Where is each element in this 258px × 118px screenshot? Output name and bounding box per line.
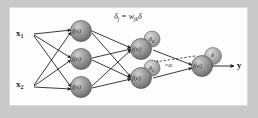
input-label-x2: x2 <box>16 80 24 89</box>
edge-x1-h1 <box>34 30 71 34</box>
node-label-hidden1-3: f(e) <box>72 84 81 91</box>
node-label-hidden2-1: f(e) <box>132 46 141 53</box>
badge-label-delta-4: δ4 <box>149 36 154 43</box>
backprop-weight-label: w46 <box>165 62 172 67</box>
badge-label-delta-output: δ <box>211 52 214 59</box>
edge-x1-h3 <box>34 36 71 87</box>
output-label-y: y <box>237 61 242 70</box>
figure-panel: x1 x2 δj = wjkδ f(e) f(e) f(e) f(e) f(e)… <box>9 7 248 106</box>
node-label-hidden2-2: f(e) <box>132 75 141 82</box>
edge-x2-h3 <box>34 87 71 89</box>
figure-screenshot: x1 x2 δj = wjkδ f(e) f(e) f(e) f(e) f(e)… <box>0 0 258 118</box>
edge-x1-h2 <box>34 35 71 58</box>
node-label-hidden1-2: f(e) <box>72 56 81 63</box>
node-label-hidden1-1: f(e) <box>72 28 81 35</box>
edges-hidden1-to-hidden2 <box>92 31 131 88</box>
edge-x2-h2 <box>34 60 71 86</box>
node-label-output: f(e) <box>193 63 202 70</box>
edge-x2-h1 <box>34 32 71 85</box>
edge-h2-h4 <box>92 49 131 58</box>
delta-formula: δj = wjkδ <box>114 13 142 21</box>
edge-h2-h5 <box>92 60 131 78</box>
edges-input-to-hidden1 <box>34 30 71 89</box>
input-label-x1: x1 <box>16 29 24 38</box>
badge-label-delta-5: δ5 <box>149 65 154 72</box>
backprop-dashed-arrow <box>155 56 195 62</box>
